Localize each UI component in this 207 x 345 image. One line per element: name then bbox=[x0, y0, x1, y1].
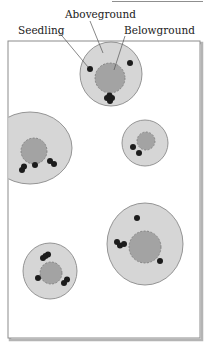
seedling-dot bbox=[127, 60, 133, 66]
seedling-dot bbox=[121, 241, 127, 247]
seedling-patch-diagram: Aboveground Seedling Belowground bbox=[0, 0, 207, 345]
belowground-zone bbox=[21, 138, 47, 164]
seedling-dot bbox=[130, 144, 136, 150]
patch-small-right bbox=[122, 120, 168, 166]
seedling-dot bbox=[21, 164, 27, 170]
patch-bottom-right bbox=[107, 203, 183, 285]
seedling-dot bbox=[136, 150, 142, 156]
belowground-zone bbox=[137, 132, 155, 150]
seedling-dot bbox=[32, 162, 38, 168]
seedling-dot bbox=[134, 215, 140, 221]
seedling-dot bbox=[64, 277, 70, 283]
patch-bottom-left bbox=[23, 243, 77, 299]
seedling-dot bbox=[43, 253, 49, 259]
belowground-zone bbox=[129, 231, 161, 263]
belowground-zone bbox=[40, 262, 62, 284]
aboveground-label: Aboveground bbox=[64, 8, 136, 20]
seedling-dot bbox=[157, 258, 163, 264]
belowground-zone bbox=[95, 63, 125, 93]
seedling-dot bbox=[107, 98, 113, 104]
patch-top bbox=[80, 42, 142, 106]
seedling-dot bbox=[107, 93, 113, 99]
seedling-label: Seedling bbox=[18, 24, 65, 36]
seedling-dot bbox=[51, 161, 57, 167]
seedling-dot bbox=[35, 275, 41, 281]
belowground-label: Belowground bbox=[124, 24, 195, 36]
